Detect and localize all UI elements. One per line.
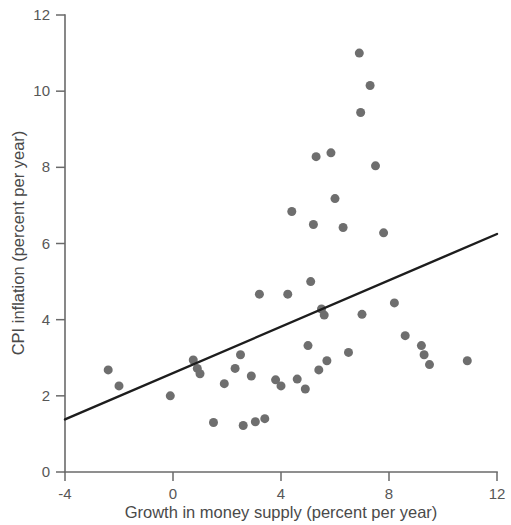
data-point <box>115 381 124 390</box>
data-point <box>239 421 248 430</box>
data-point <box>366 81 375 90</box>
data-point <box>277 381 286 390</box>
data-point <box>379 228 388 237</box>
data-point <box>420 350 429 359</box>
data-point <box>356 108 365 117</box>
data-point <box>304 341 313 350</box>
y-tick-label: 0 <box>42 463 50 480</box>
data-point <box>104 365 113 374</box>
x-tick-label: 8 <box>385 485 393 502</box>
x-tick-label: -4 <box>58 485 71 502</box>
data-point <box>355 49 364 58</box>
data-point <box>255 290 264 299</box>
data-point <box>293 375 302 384</box>
data-point <box>314 365 323 374</box>
data-point <box>301 384 310 393</box>
data-point <box>251 417 260 426</box>
data-point <box>358 310 367 319</box>
data-point <box>417 341 426 350</box>
data-point <box>326 148 335 157</box>
data-point <box>247 372 256 381</box>
y-tick-label: 4 <box>42 311 50 328</box>
y-tick-label: 12 <box>33 6 50 23</box>
x-tick-label: 12 <box>489 485 506 502</box>
x-tick-label: 4 <box>277 485 285 502</box>
data-point <box>371 161 380 170</box>
y-tick-label: 2 <box>42 387 50 404</box>
data-point <box>209 418 218 427</box>
data-point <box>220 379 229 388</box>
data-point <box>401 331 410 340</box>
data-point <box>320 311 329 320</box>
data-point <box>236 350 245 359</box>
x-tick-label: 0 <box>169 485 177 502</box>
data-point <box>344 348 353 357</box>
x-axis-title: Growth in money supply (percent per year… <box>125 503 438 521</box>
data-point <box>166 391 175 400</box>
x-axis-ticks: -404812 <box>58 472 505 502</box>
chart-canvas: 024681012 -404812 Growth in money supply… <box>0 0 511 525</box>
axes <box>65 15 497 472</box>
data-point <box>425 360 434 369</box>
data-point <box>331 194 340 203</box>
data-points-layer <box>104 49 472 430</box>
data-point <box>287 207 296 216</box>
data-point <box>309 220 318 229</box>
y-axis-ticks: 024681012 <box>33 6 65 480</box>
y-axis-title: CPI inflation (percent per year) <box>9 131 27 356</box>
data-point <box>390 298 399 307</box>
data-point <box>196 369 205 378</box>
data-point <box>306 277 315 286</box>
y-tick-label: 10 <box>33 82 50 99</box>
y-tick-label: 6 <box>42 235 50 252</box>
data-point <box>283 290 292 299</box>
data-point <box>260 414 269 423</box>
trend-line <box>65 234 497 419</box>
y-tick-label: 8 <box>42 158 50 175</box>
data-point <box>312 152 321 161</box>
data-point <box>322 356 331 365</box>
data-point <box>339 223 348 232</box>
scatter-plot-figure: 024681012 -404812 Growth in money supply… <box>0 0 511 525</box>
data-point <box>463 356 472 365</box>
trend-line-layer <box>65 234 497 419</box>
data-point <box>231 364 240 373</box>
